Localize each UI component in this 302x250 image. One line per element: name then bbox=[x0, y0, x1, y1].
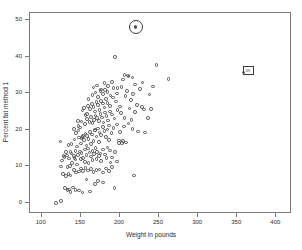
data-point bbox=[95, 135, 99, 139]
data-point bbox=[96, 95, 100, 99]
data-point bbox=[131, 127, 135, 131]
data-point bbox=[100, 116, 104, 120]
data-point bbox=[110, 113, 114, 117]
data-point bbox=[112, 126, 116, 130]
data-point bbox=[143, 131, 147, 135]
data-point bbox=[80, 151, 84, 155]
data-point bbox=[76, 119, 80, 123]
data-point bbox=[167, 77, 171, 81]
data-point bbox=[127, 122, 131, 126]
x-axis-tick bbox=[236, 213, 237, 217]
data-points-layer: 39 bbox=[30, 13, 290, 212]
data-point bbox=[85, 112, 89, 116]
data-point bbox=[113, 150, 117, 154]
data-point bbox=[93, 128, 97, 132]
data-point bbox=[134, 25, 138, 29]
data-point bbox=[83, 122, 87, 126]
data-point bbox=[101, 181, 105, 185]
data-point bbox=[128, 107, 132, 111]
data-point bbox=[99, 133, 103, 137]
x-axis-tick-label: 350 bbox=[231, 219, 241, 225]
data-point bbox=[69, 174, 73, 178]
data-point bbox=[85, 153, 89, 157]
data-point bbox=[113, 55, 117, 59]
data-point bbox=[131, 92, 135, 96]
data-point bbox=[103, 106, 107, 110]
data-point bbox=[87, 161, 91, 165]
data-point bbox=[88, 190, 92, 194]
data-point bbox=[118, 105, 122, 109]
data-point bbox=[60, 159, 64, 163]
x-axis-tick-label: 150 bbox=[75, 219, 85, 225]
data-point bbox=[64, 150, 68, 154]
outlier-box-annotation: 39 bbox=[243, 66, 254, 75]
data-point bbox=[93, 182, 97, 186]
data-point bbox=[115, 160, 119, 164]
data-point bbox=[79, 157, 83, 161]
data-point bbox=[113, 186, 117, 190]
data-point bbox=[116, 86, 120, 90]
data-point bbox=[130, 118, 134, 122]
data-point bbox=[118, 130, 122, 134]
x-axis-tick-label: 250 bbox=[153, 219, 163, 225]
data-point bbox=[59, 165, 63, 169]
x-axis-tick bbox=[158, 213, 159, 217]
data-point bbox=[101, 171, 105, 175]
data-point bbox=[79, 142, 83, 146]
y-axis-tick-label: 10 bbox=[15, 162, 22, 168]
data-point bbox=[87, 137, 91, 141]
data-point bbox=[113, 117, 117, 121]
data-point bbox=[115, 123, 119, 127]
data-point bbox=[108, 149, 112, 153]
x-axis-tick-label: 100 bbox=[36, 219, 46, 225]
data-point bbox=[96, 103, 100, 107]
data-point bbox=[106, 119, 110, 123]
data-point bbox=[93, 110, 97, 114]
data-point bbox=[105, 156, 109, 160]
data-point bbox=[123, 116, 127, 120]
outlier-box-label: 39 bbox=[245, 67, 249, 75]
data-point bbox=[121, 78, 125, 82]
data-point bbox=[120, 85, 124, 89]
data-point bbox=[106, 84, 110, 88]
data-point bbox=[54, 201, 58, 205]
data-point bbox=[99, 159, 103, 163]
data-point bbox=[136, 130, 140, 134]
data-point bbox=[75, 145, 79, 149]
data-point bbox=[106, 128, 110, 132]
data-point bbox=[92, 105, 96, 109]
data-point bbox=[135, 103, 139, 107]
plot-area: 39 bbox=[29, 12, 291, 213]
data-point bbox=[148, 93, 152, 97]
data-point bbox=[133, 83, 137, 87]
data-point bbox=[101, 102, 105, 106]
data-point bbox=[95, 84, 99, 88]
x-axis-tick-label: 200 bbox=[114, 219, 124, 225]
y-axis-tick-label: 0 bbox=[19, 199, 22, 205]
data-point bbox=[85, 178, 89, 182]
data-point bbox=[99, 88, 103, 92]
data-point bbox=[149, 107, 153, 111]
data-point bbox=[59, 140, 63, 144]
data-point bbox=[96, 127, 100, 131]
data-point bbox=[101, 92, 105, 96]
x-axis-tick bbox=[41, 213, 42, 217]
data-point bbox=[126, 74, 130, 78]
data-point bbox=[107, 124, 111, 128]
data-point bbox=[73, 156, 77, 160]
data-point bbox=[133, 110, 137, 114]
x-axis-tick bbox=[197, 213, 198, 217]
data-point bbox=[70, 142, 74, 146]
data-point bbox=[74, 149, 78, 153]
data-point bbox=[97, 119, 101, 123]
data-point bbox=[151, 85, 155, 89]
data-point bbox=[77, 129, 81, 133]
data-point bbox=[107, 138, 111, 142]
data-point bbox=[119, 111, 123, 115]
x-axis-tick-label: 300 bbox=[192, 219, 202, 225]
data-point bbox=[124, 141, 128, 145]
x-axis-tick bbox=[80, 213, 81, 217]
data-point bbox=[112, 86, 116, 90]
data-point bbox=[101, 148, 105, 152]
x-axis-tick-label: 400 bbox=[270, 219, 280, 225]
